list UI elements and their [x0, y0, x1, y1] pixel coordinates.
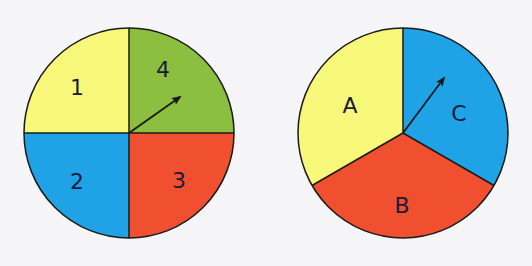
spinner-letters: A C B — [298, 28, 508, 238]
sector-label-4: 4 — [156, 57, 170, 82]
spinners-diagram: 1 4 3 2 A C B — [0, 0, 532, 266]
sector-label-1: 1 — [70, 75, 84, 100]
sector-4 — [129, 28, 234, 133]
sector-label-B: B — [394, 193, 409, 218]
sector-label-C: C — [451, 101, 466, 126]
sector-label-A: A — [342, 93, 357, 118]
spinner-numbers: 1 4 3 2 — [24, 28, 234, 238]
spinners-svg: 1 4 3 2 A C B — [0, 0, 532, 266]
sector-label-3: 3 — [172, 168, 186, 193]
sector-label-2: 2 — [70, 169, 84, 194]
